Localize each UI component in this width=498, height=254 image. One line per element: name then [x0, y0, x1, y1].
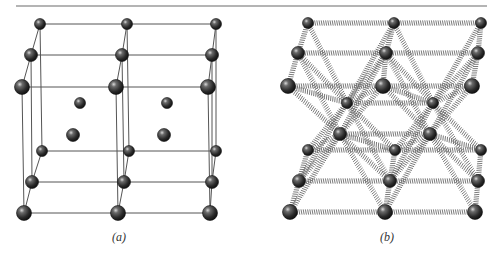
atom-sphere — [75, 98, 86, 109]
atom-sphere — [15, 80, 30, 95]
atom-sphere — [116, 49, 129, 62]
atom-sphere — [476, 145, 487, 156]
spring-bond — [300, 50, 385, 55]
atom-sphere — [118, 176, 131, 189]
spring-bond — [339, 55, 388, 133]
bond-line — [22, 87, 24, 213]
atom-sphere — [203, 206, 218, 221]
atom-sphere — [342, 98, 353, 109]
atom-sphere — [201, 80, 216, 95]
atom-sphere — [378, 205, 393, 220]
bond-line — [116, 87, 118, 213]
atom-sphere — [293, 175, 306, 188]
atom-sphere — [37, 146, 48, 157]
atom-sphere — [25, 49, 38, 62]
atom-sphere — [424, 128, 437, 141]
bond-line — [208, 87, 210, 213]
atom-sphere — [111, 206, 126, 221]
atom-sphere — [292, 47, 305, 60]
spring-bond — [349, 100, 431, 105]
atom-sphere — [476, 18, 487, 29]
atom-sphere — [26, 176, 39, 189]
spring-bond — [387, 209, 472, 214]
atom-sphere — [109, 80, 124, 95]
atom-sphere — [67, 129, 80, 142]
spring-bond — [307, 24, 348, 102]
caption-b: (b) — [380, 230, 394, 245]
spring-bond — [393, 24, 434, 102]
spring-bond — [301, 178, 388, 183]
atom-sphere — [468, 205, 483, 220]
atom-sphere — [206, 49, 219, 62]
bond-line — [122, 55, 124, 182]
atom-sphere — [281, 79, 296, 94]
atom-sphere — [380, 47, 393, 60]
atom-sphere — [428, 98, 439, 109]
atom-sphere — [334, 128, 347, 141]
atom-sphere — [390, 145, 401, 156]
crystal-lattice-figure — [0, 0, 498, 254]
spring-bond — [430, 136, 476, 212]
atom-sphere — [124, 146, 135, 157]
spring-bond — [310, 20, 392, 25]
panel-a-lattice — [15, 19, 222, 221]
spring-bond — [396, 20, 478, 25]
atom-sphere — [303, 145, 314, 156]
atom-sphere — [472, 175, 485, 188]
atom-sphere — [211, 19, 222, 30]
atom-sphere — [389, 18, 400, 29]
caption-a: (a) — [112, 230, 126, 245]
atom-sphere — [206, 176, 219, 189]
bond-line — [31, 55, 32, 182]
spring-bond — [433, 54, 479, 103]
atom-sphere — [211, 146, 222, 157]
atom-sphere — [122, 19, 133, 30]
atom-sphere — [35, 19, 46, 30]
atom-sphere — [303, 18, 314, 29]
panel-b-lattice — [281, 18, 487, 220]
panel-b-atoms — [281, 18, 487, 220]
atom-sphere — [472, 47, 485, 60]
atom-sphere — [384, 175, 397, 188]
spring-bond — [289, 135, 341, 211]
atom-sphere — [283, 205, 298, 220]
atom-sphere — [162, 98, 173, 109]
atom-sphere — [17, 206, 32, 221]
atom-sphere — [158, 129, 171, 142]
spring-bond — [292, 209, 383, 214]
atom-sphere — [376, 79, 391, 94]
atom-sphere — [465, 79, 480, 94]
